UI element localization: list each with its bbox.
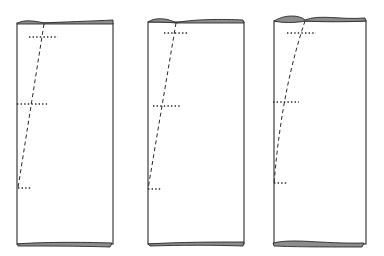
- panel-1-outline: [17, 23, 113, 244]
- panel-2: [148, 19, 244, 246]
- panel-2-top-fold: [148, 19, 244, 23]
- panel-2-outline: [148, 22, 244, 244]
- panel-3-outline: [274, 21, 366, 244]
- panel-3-top-fold: [274, 16, 366, 23]
- panel-1-top-fold: [17, 20, 113, 24]
- diagram-canvas: [0, 0, 384, 256]
- panel-3: [273, 16, 366, 247]
- panel-1-bottom-fold: [17, 242, 112, 247]
- panel-1: [17, 20, 113, 247]
